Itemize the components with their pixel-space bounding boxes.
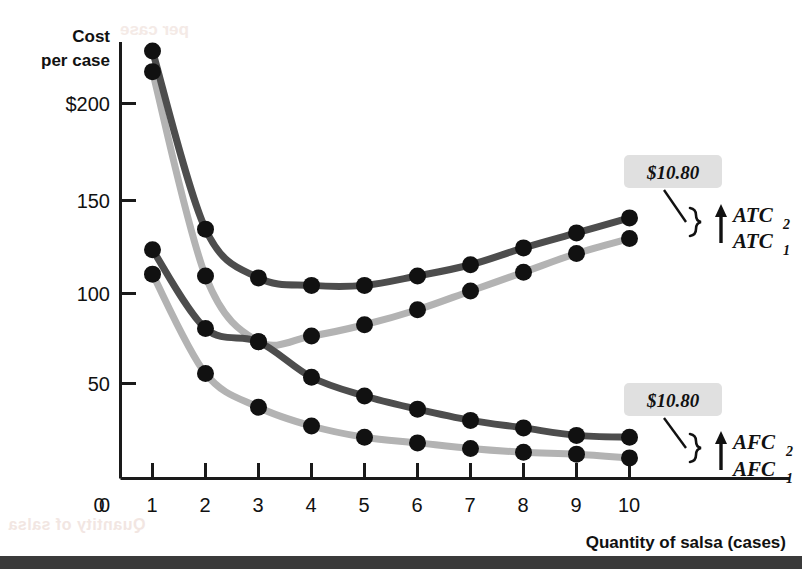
data-point-atc2-q5	[356, 277, 373, 294]
atc-gap-arrow-icon	[715, 204, 727, 243]
chart-svg: $200 150 100 50 0 Cost per case 0	[0, 0, 802, 576]
data-point-atc1-q8	[515, 264, 532, 281]
x-tick-label-1: 1	[146, 494, 157, 516]
data-point-afc2-q7	[462, 412, 479, 429]
y-tick-label-50: 50	[88, 373, 110, 395]
x-axis-ticks	[153, 463, 630, 478]
afc-callout-label: $10.80	[646, 390, 700, 411]
page-footer-shadow	[0, 569, 802, 576]
data-point-atc2-q10	[621, 209, 638, 226]
x-tick-label-3: 3	[252, 494, 263, 516]
data-point-atc1-q4	[303, 328, 320, 345]
data-point-afc2-q2	[197, 320, 214, 337]
y-tick-label-150: 150	[77, 190, 110, 212]
atc1-series-label: ATC	[731, 229, 774, 253]
x-axis-tick-labels: 0 1 2 3 4 5 6 7 8 9 10	[93, 494, 640, 516]
series-line-atc1	[153, 72, 630, 346]
data-point-atc2-q6	[409, 268, 426, 285]
data-point-afc1-q7	[462, 440, 479, 457]
data-point-atc2-q2	[197, 221, 214, 238]
x-tick-label-8: 8	[517, 494, 528, 516]
x-axis-title: Quantity of salsa (cases)	[586, 533, 786, 552]
data-point-afc1-q4	[303, 418, 320, 435]
atc-gap-brace-icon	[690, 208, 701, 236]
data-point-afc1-q5	[356, 429, 373, 446]
data-point-afc1-q1	[144, 266, 161, 283]
data-point-atc1-q2	[197, 268, 214, 285]
atc2-series-label: ATC	[731, 203, 774, 227]
x-tick-label-2: 2	[199, 494, 210, 516]
data-point-atc1-q7	[462, 283, 479, 300]
data-point-afc2-q6	[409, 401, 426, 418]
data-point-atc2-q4	[303, 277, 320, 294]
y-tick-label-200: $200	[66, 93, 111, 115]
data-point-atc2-q1	[144, 43, 161, 60]
bleed-through-text-top: per case	[120, 20, 189, 40]
y-axis-title-line1: Cost	[72, 27, 110, 46]
x-tick-label-0: 0	[93, 494, 104, 516]
data-point-atc2-q9	[568, 224, 585, 241]
data-point-afc1-q10	[621, 449, 638, 466]
data-point-afc1-q3	[250, 399, 267, 416]
atc1-series-label-subscript: 1	[783, 243, 790, 258]
x-tick-label-7: 7	[464, 494, 475, 516]
atc-callout-group: $10.80 ATC 2 ATC 1	[624, 155, 790, 258]
afc1-series-label: AFC	[731, 457, 776, 481]
data-point-atc1-q10	[621, 230, 638, 247]
afc-callout-group: $10.80 AFC 2 AFC 1	[624, 383, 793, 486]
atc2-series-label-subscript: 2	[782, 217, 790, 232]
data-point-atc1-q1	[144, 63, 161, 80]
data-point-atc2-q3	[250, 269, 267, 286]
afc1-series-label-subscript: 1	[786, 471, 793, 486]
data-point-atc1-q6	[409, 301, 426, 318]
data-point-afc2-q1	[144, 241, 161, 258]
afc2-series-label: AFC	[731, 430, 776, 454]
series-paths	[153, 51, 630, 458]
cost-curves-figure: Quantity of salsa per case $200 150 100 …	[0, 0, 802, 576]
bleed-through-text-bottom: Quantity of salsa	[8, 516, 145, 534]
data-point-atc2-q8	[515, 239, 532, 256]
afc-gap-brace-icon	[690, 434, 701, 462]
x-tick-label-5: 5	[358, 494, 369, 516]
data-point-atc1-q9	[568, 245, 585, 262]
afc-callout-leader-line	[664, 418, 686, 448]
y-axis-tick-labels: $200 150 100 50 0	[66, 93, 111, 516]
data-point-afc2-q10	[621, 429, 638, 446]
series-line-atc2	[153, 51, 630, 286]
page-footer-bar	[0, 556, 802, 569]
data-point-afc1-q6	[409, 434, 426, 451]
y-axis-ticks	[120, 104, 136, 384]
x-tick-label-9: 9	[570, 494, 581, 516]
data-point-atc2-q7	[462, 256, 479, 273]
x-tick-label-10: 10	[618, 494, 640, 516]
data-point-afc2-q5	[356, 388, 373, 405]
y-tick-label-100: 100	[77, 283, 110, 305]
atc-callout-label: $10.80	[646, 162, 700, 183]
x-tick-label-4: 4	[305, 494, 316, 516]
data-point-afc2-q9	[568, 427, 585, 444]
data-point-afc1-q9	[568, 446, 585, 463]
data-point-afc1-q8	[515, 444, 532, 461]
atc-callout-leader-line	[664, 190, 686, 222]
x-tick-label-6: 6	[411, 494, 422, 516]
data-point-afc2-q4	[303, 369, 320, 386]
afc2-series-label-subscript: 2	[785, 444, 793, 459]
data-point-atc1-q5	[356, 316, 373, 333]
y-axis-title: Cost per case	[41, 27, 110, 70]
y-axis-title-line2: per case	[41, 51, 110, 70]
afc-gap-arrow-icon	[715, 431, 727, 470]
data-point-afc2-q3	[250, 333, 267, 350]
data-point-afc2-q8	[515, 419, 532, 436]
data-point-afc1-q2	[197, 365, 214, 382]
